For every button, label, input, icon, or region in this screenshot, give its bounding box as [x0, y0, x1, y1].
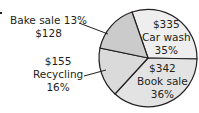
- book-sale-value: $342: [137, 62, 188, 75]
- label-book-sale: $342 Book sale 36%: [137, 62, 188, 101]
- car-wash-name: Car wash: [142, 31, 191, 44]
- label-car-wash: $335 Car wash 35%: [142, 18, 191, 57]
- corner-mark: [0, 12, 2, 14]
- recycling-value: $155: [33, 55, 83, 68]
- recycling-percent: 16%: [33, 81, 83, 94]
- bake-sale-name-percent: Bake sale 13%: [10, 14, 87, 27]
- bake-sale-value: $128: [10, 27, 87, 40]
- label-recycling: $155 Recycling 16%: [33, 55, 83, 94]
- book-sale-percent: 36%: [137, 88, 188, 101]
- car-wash-percent: 35%: [142, 44, 191, 57]
- label-bake-sale: Bake sale 13% $128: [10, 14, 87, 40]
- car-wash-value: $335: [142, 18, 191, 31]
- recycling-name: Recycling: [33, 68, 83, 81]
- book-sale-name: Book sale: [137, 75, 188, 88]
